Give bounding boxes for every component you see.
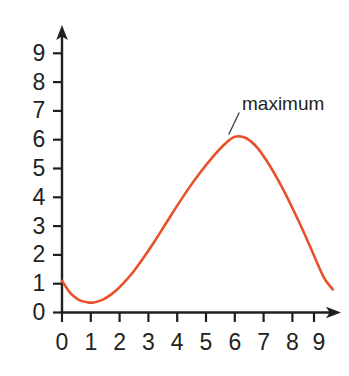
x-tick-label-1: 1: [84, 329, 97, 355]
maximum-annotation-label: maximum: [242, 93, 324, 114]
x-tick-label-6: 6: [228, 329, 241, 355]
x-tick-label-2: 2: [113, 329, 126, 355]
x-tick-label-3: 3: [142, 329, 155, 355]
y-tick-label-2: 2: [33, 241, 46, 267]
chart-background: [0, 0, 349, 376]
x-tick-label-4: 4: [171, 329, 184, 355]
x-tick-label-5: 5: [200, 329, 213, 355]
y-tick-label-1: 1: [33, 270, 46, 296]
y-tick-label-6: 6: [33, 126, 46, 152]
x-tick-label-9: 9: [313, 329, 326, 355]
x-tick-label-0: 0: [56, 329, 69, 355]
x-tick-label-8: 8: [286, 329, 299, 355]
chart-canvas: 0 1 2 3 4 5 6 7 8 9 0 1 2: [0, 0, 349, 376]
y-tick-label-9: 9: [33, 40, 46, 66]
x-tick-label-7: 7: [257, 329, 270, 355]
y-tick-label-7: 7: [33, 97, 46, 123]
y-tick-label-5: 5: [33, 155, 46, 181]
y-tick-label-0: 0: [33, 299, 46, 325]
y-tick-label-4: 4: [33, 184, 46, 210]
y-tick-label-8: 8: [33, 69, 46, 95]
y-tick-label-3: 3: [33, 213, 46, 239]
chart-figure: 0 1 2 3 4 5 6 7 8 9 0 1 2: [0, 0, 349, 376]
